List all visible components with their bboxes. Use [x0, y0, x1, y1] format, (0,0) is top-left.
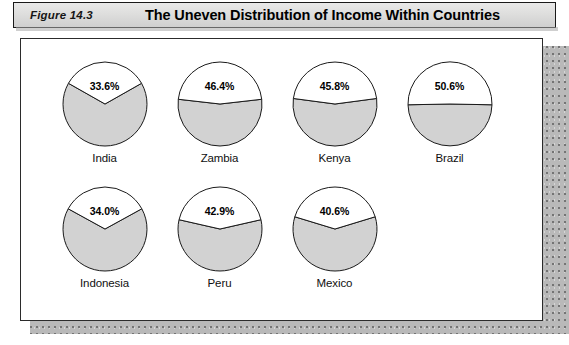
- pie-slice-top-fifth: [293, 62, 376, 104]
- pie-row-top: 33.6%India46.4%Zambia45.8%Kenya50.6%Braz…: [47, 61, 507, 164]
- pie-chart-zambia: 46.4%Zambia: [162, 61, 277, 164]
- pie-country-label: Zambia: [201, 152, 239, 164]
- pie-slice-remainder: [408, 104, 492, 146]
- pie-graphic: 40.6%: [292, 186, 378, 272]
- pie-graphic: 33.6%: [62, 61, 148, 147]
- pie-slice-remainder: [293, 98, 377, 146]
- figure-title-bar: Figure 14.3 The Uneven Distribution of I…: [13, 2, 556, 28]
- pie-country-label: Kenya: [318, 152, 350, 164]
- pie-graphic: 50.6%: [407, 61, 493, 147]
- pie-chart-kenya: 45.8%Kenya: [277, 61, 392, 164]
- pie-country-label: Indonesia: [80, 277, 129, 289]
- pie-row-bottom: 34.0%Indonesia42.9%Peru40.6%Mexico: [47, 186, 392, 289]
- figure-panel: 33.6%India46.4%Zambia45.8%Kenya50.6%Braz…: [20, 38, 543, 321]
- pie-graphic: 46.4%: [177, 61, 263, 147]
- pie-country-label: India: [92, 152, 116, 164]
- pie-slice-top-fifth: [179, 187, 261, 229]
- pie-chart-peru: 42.9%Peru: [162, 186, 277, 289]
- figure-title: The Uneven Distribution of Income Within…: [145, 7, 500, 23]
- pie-slice-top-fifth: [408, 62, 492, 105]
- pie-chart-india: 33.6%India: [47, 61, 162, 164]
- pie-slice-top-fifth: [178, 62, 261, 104]
- figure-number-label: Figure 14.3: [30, 9, 93, 21]
- pie-slice-remainder: [178, 99, 262, 146]
- pie-country-label: Peru: [208, 277, 232, 289]
- pie-graphic: 42.9%: [177, 186, 263, 272]
- pie-graphic: 45.8%: [292, 61, 378, 147]
- pie-chart-indonesia: 34.0%Indonesia: [47, 186, 162, 289]
- pie-chart-mexico: 40.6%Mexico: [277, 186, 392, 289]
- pie-country-label: Mexico: [317, 277, 353, 289]
- pie-chart-brazil: 50.6%Brazil: [392, 61, 507, 164]
- pie-country-label: Brazil: [435, 152, 463, 164]
- pie-graphic: 34.0%: [62, 186, 148, 272]
